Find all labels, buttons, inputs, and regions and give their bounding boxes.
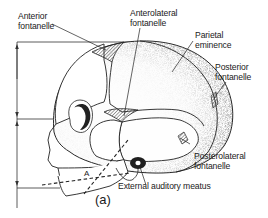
- label-line: Anterior: [18, 11, 54, 21]
- infant-skull-lateral-diagram: Anterior fontanelle Anterolateral fontan…: [0, 0, 268, 218]
- external-auditory-meatus-shape: [130, 157, 146, 169]
- label-parietal-eminence: Parietal eminence: [195, 30, 231, 50]
- label-line: Parietal: [195, 30, 231, 40]
- label-line: Posterior: [215, 62, 251, 72]
- figure-caption: (a): [95, 192, 111, 207]
- label-posterolateral-fontanelle: Posterolateral fontanelle: [194, 151, 246, 171]
- label-line: eminence: [195, 40, 231, 50]
- label-posterior-fontanelle: Posterior fontanelle: [215, 62, 251, 82]
- label-line: Posterolateral: [194, 151, 246, 161]
- label-angle-a: A: [84, 169, 89, 179]
- label-line: fontanelle: [215, 72, 251, 82]
- label-external-auditory-meatus: External auditory meatus: [118, 181, 211, 191]
- label-line: fontanelle: [194, 161, 246, 171]
- label-line: fontanelle: [130, 18, 177, 28]
- label-line: Anterolateral: [130, 8, 177, 18]
- orbit: [69, 100, 93, 133]
- label-anterior-fontanelle: Anterior fontanelle: [18, 11, 54, 31]
- label-line: fontanelle: [18, 21, 54, 31]
- greater-wing: [90, 120, 124, 161]
- label-anterolateral-fontanelle: Anterolateral fontanelle: [130, 8, 177, 28]
